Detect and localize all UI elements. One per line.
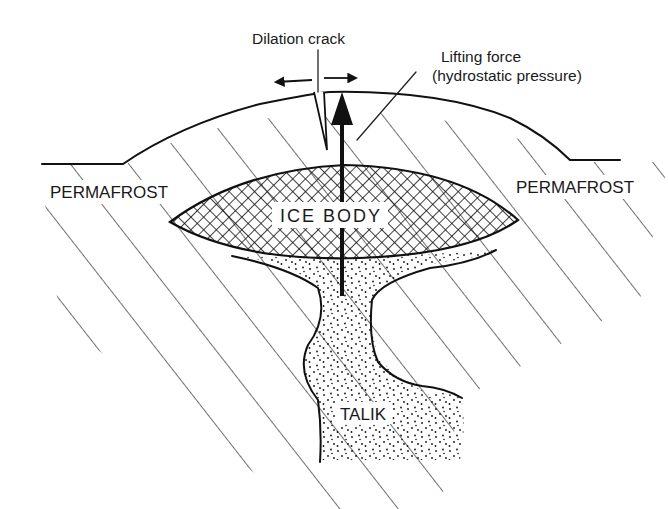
hydrostatic-pressure-label: (hydrostatic pressure): [432, 67, 582, 84]
permafrost-left-label: PERMAFROST: [50, 183, 168, 202]
talik-label: TALIK: [340, 405, 387, 424]
dilation-crack-label: Dilation crack: [252, 30, 345, 47]
pingo-diagram: Dilation crack Lifting force (hydrostati…: [0, 0, 668, 509]
crack-spread-left-arrow: [276, 80, 312, 82]
lifting-force-label: Lifting force: [441, 48, 521, 65]
ice-body-label: ICE BODY: [280, 206, 382, 226]
permafrost-right-label: PERMAFROST: [516, 178, 634, 197]
